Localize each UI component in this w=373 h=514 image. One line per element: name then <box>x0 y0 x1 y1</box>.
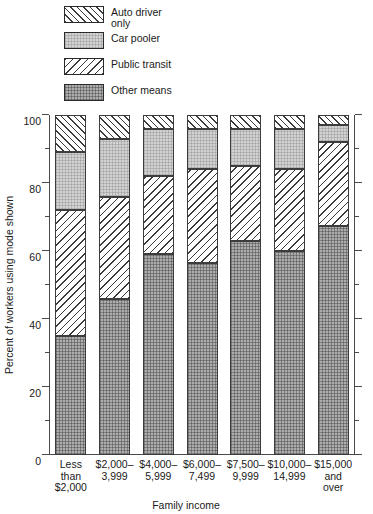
legend-label: Car pooler <box>111 32 160 44</box>
y-tick-major-right-40 <box>355 318 362 319</box>
y-axis-title: Percent of workers using mode shown <box>3 196 15 374</box>
bar-segment-pool <box>187 129 218 170</box>
bar-3 <box>143 115 174 455</box>
x-tick-label-7: $15,000 and over <box>314 459 352 494</box>
y-tick-major-40 <box>42 318 49 319</box>
bar-segment-transit <box>230 166 261 241</box>
y-tick-major-right-0 <box>355 454 362 455</box>
y-tick-major-100 <box>42 114 49 115</box>
y-tick-minor-right-30 <box>355 352 359 353</box>
legend-item-transit: Public transit <box>64 58 224 77</box>
bar-segment-other <box>143 254 174 455</box>
bar-segment-transit <box>318 142 349 225</box>
y-tick-major-right-20 <box>355 386 362 387</box>
y-tick-major-right-100 <box>355 114 362 115</box>
legend-swatch-transit <box>64 58 104 75</box>
legend-item-other: Other means <box>64 84 224 103</box>
bar-segment-pool <box>318 125 349 142</box>
bar-segment-pool <box>274 129 305 170</box>
chart-legend: Auto driver onlyCar poolerPublic transit… <box>64 6 224 110</box>
y-tick-minor-right-70 <box>355 216 359 217</box>
y-tick-minor-90 <box>45 148 49 149</box>
y-tick-major-right-60 <box>355 250 362 251</box>
bar-segment-auto <box>318 115 349 125</box>
bar-segment-other <box>230 241 261 455</box>
y-tick-major-right-80 <box>355 182 362 183</box>
bar-segment-transit <box>55 210 86 336</box>
y-axis-right-spine <box>354 115 355 455</box>
bar-segment-auto <box>187 115 218 129</box>
x-axis-tick-labels: Less than $2,000$2,000– 3,999$4,000– 5,9… <box>49 459 355 499</box>
bar-segment-transit <box>143 176 174 254</box>
y-tick-minor-50 <box>45 284 49 285</box>
bar-segment-other <box>318 226 349 456</box>
legend-label: Auto driver only <box>111 6 162 28</box>
legend-label: Other means <box>111 84 172 96</box>
bar-segment-pool <box>55 152 86 210</box>
x-tick-label-1: Less than $2,000 <box>55 459 87 494</box>
legend-label: Public transit <box>111 58 171 70</box>
bar-4 <box>187 115 218 455</box>
bar-segment-pool <box>99 139 130 197</box>
plot-area: 020406080100 Percent of workers using mo… <box>49 115 355 455</box>
bar-segment-transit <box>187 169 218 263</box>
y-tick-major-80 <box>42 182 49 183</box>
bar-7 <box>318 115 349 455</box>
legend-item-auto: Auto driver only <box>64 6 224 25</box>
bar-1 <box>55 115 86 455</box>
x-tick-label-2: $2,000– 3,999 <box>96 459 134 482</box>
bar-6 <box>274 115 305 455</box>
x-tick-label-4: $6,000– 7,499 <box>183 459 221 482</box>
y-tick-major-60 <box>42 250 49 251</box>
y-tick-minor-right-50 <box>355 284 359 285</box>
bar-segment-auto <box>230 115 261 129</box>
legend-item-pool: Car pooler <box>64 32 224 51</box>
y-tick-minor-10 <box>45 420 49 421</box>
y-tick-minor-30 <box>45 352 49 353</box>
bar-segment-other <box>99 299 130 455</box>
bar-2 <box>99 115 130 455</box>
bar-segment-auto <box>143 115 174 129</box>
legend-swatch-pool <box>64 32 104 49</box>
x-tick-label-5: $7,500– 9,999 <box>227 459 265 482</box>
y-tick-minor-right-10 <box>355 420 359 421</box>
legend-swatch-auto <box>64 6 104 23</box>
legend-swatch-other <box>64 84 104 101</box>
y-tick-major-20 <box>42 386 49 387</box>
y-axis-left-spine <box>49 115 50 455</box>
bar-segment-auto <box>55 115 86 152</box>
x-tick-label-3: $4,000– 5,999 <box>139 459 177 482</box>
bar-segment-pool <box>143 129 174 177</box>
y-tick-major-0 <box>42 454 49 455</box>
bar-segment-pool <box>230 129 261 166</box>
bar-segment-other <box>55 336 86 455</box>
x-tick-label-6: $10,000– 14,999 <box>268 459 312 482</box>
bar-5 <box>230 115 261 455</box>
y-tick-minor-70 <box>45 216 49 217</box>
y-tick-minor-right-90 <box>355 148 359 149</box>
bar-segment-auto <box>274 115 305 129</box>
bar-segment-auto <box>99 115 130 139</box>
bar-segment-transit <box>274 169 305 251</box>
bar-segment-other <box>274 251 305 455</box>
bar-segment-transit <box>99 197 130 299</box>
bar-segment-other <box>187 263 218 455</box>
x-axis-title: Family income <box>152 499 220 511</box>
